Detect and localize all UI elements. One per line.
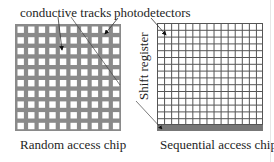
arrow-shift-register [136,101,162,129]
arrow-conductive-2 [71,17,120,85]
caption-sequential-access-chip: Sequential access chip [160,138,274,152]
border-line [270,0,271,162]
caption-random-access-chip: Random access chip [20,138,126,152]
arrow-conductive-1 [58,17,62,50]
arrow-photodetector-right [151,18,166,35]
arrow-photodetector-left [105,18,118,34]
